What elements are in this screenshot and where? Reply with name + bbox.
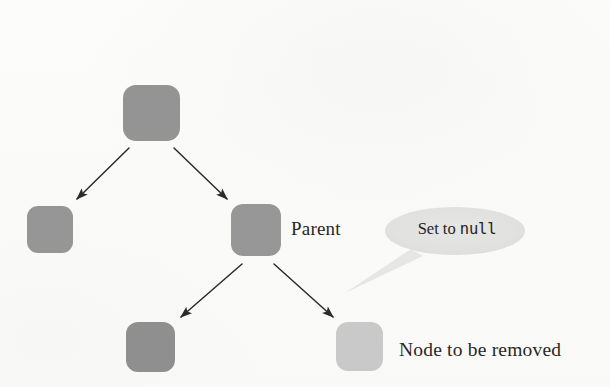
arrow-root-to-parent (174, 148, 227, 199)
arrow-parent-to-removed (274, 264, 333, 317)
parent-node (231, 204, 281, 256)
callout-text-prefix: Set to (418, 219, 460, 238)
root-node (123, 85, 180, 141)
sibling-node (126, 322, 175, 372)
arrow-root-to-left-child (77, 148, 129, 199)
left-child-node (27, 206, 73, 253)
diagram-vector-layer (0, 0, 610, 387)
callout-text: Set to null (405, 219, 509, 239)
callout-text-code: null (460, 220, 497, 238)
diagram-canvas: Parent Node to be removed Set to null (0, 0, 610, 387)
node-to-be-removed-label: Node to be removed (399, 338, 561, 361)
node-to-be-removed (336, 322, 383, 371)
arrow-parent-to-sibling (181, 264, 242, 317)
parent-label: Parent (291, 218, 341, 240)
